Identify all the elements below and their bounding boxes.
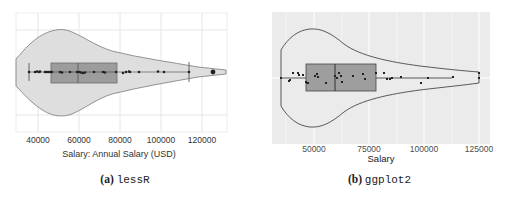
x-axis-label-a: Salary: Annual Salary (USD) (62, 149, 176, 159)
x-axis-ticks-a: 40000 60000 80000 100000 120000 (26, 135, 216, 145)
caption-a-label: (a) (100, 173, 113, 185)
outlier-point-a (211, 70, 216, 75)
caption-b: (b) ggplot2 (250, 173, 509, 186)
svg-text:100000: 100000 (410, 144, 439, 154)
caption-b-package: ggplot2 (365, 174, 411, 186)
x-axis-label-b: Salary (368, 153, 395, 164)
violin-plot-a: 40000 60000 80000 100000 120000 Salary: … (0, 0, 250, 160)
svg-text:100000: 100000 (147, 135, 176, 145)
caption-a: (a) lessR (0, 173, 250, 186)
svg-text:60000: 60000 (67, 135, 91, 145)
svg-text:80000: 80000 (108, 135, 132, 145)
caption-a-package: lessR (117, 174, 150, 186)
svg-text:125000: 125000 (465, 144, 494, 154)
x-axis-ticks-b: 50000 75000 100000 125000 (302, 144, 493, 154)
violin-plot-b: 50000 75000 100000 125000 Salary (250, 0, 509, 165)
svg-text:50000: 50000 (302, 144, 326, 154)
svg-text:40000: 40000 (26, 135, 50, 145)
svg-text:120000: 120000 (188, 135, 217, 145)
panel-b-ggplot2: 50000 75000 100000 125000 Salary (b) ggp… (250, 0, 509, 197)
box-iqr-b (306, 64, 376, 91)
panel-a-lessr: 40000 60000 80000 100000 120000 Salary: … (0, 0, 250, 197)
caption-b-label: (b) (348, 173, 362, 185)
